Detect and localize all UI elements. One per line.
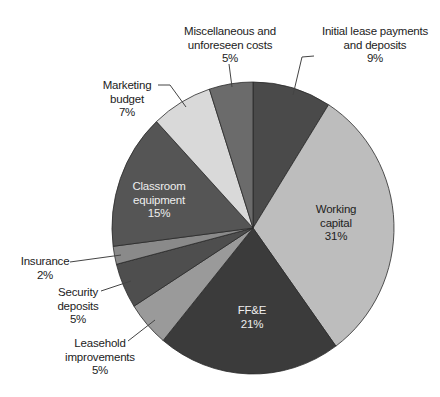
label-marketing-budget: Marketingbudget7% [103,79,152,118]
label-ff-e: FF&E21% [238,304,267,330]
label-percent: 9% [367,52,383,64]
label-text-line: equipment [133,194,186,206]
label-text-line: Initial lease payments [322,25,429,37]
label-initial-lease-payments-and-deposits: Initial lease paymentsand deposits9% [322,25,429,64]
label-text-line: Marketing [103,79,152,91]
label-text-line: and deposits [344,39,407,51]
label-leasehold-improvements: Leaseholdimprovements5% [65,337,135,376]
label-miscellaneous-and-unforeseen-costs: Miscellaneous andunforeseen costs5% [184,25,276,64]
label-percent: 21% [241,318,263,330]
leader-line-leasehold-improvements [128,320,155,341]
label-percent: 15% [148,207,170,219]
label-insurance: Insurance2% [21,255,70,281]
label-text-line: capital [320,217,352,229]
label-security-deposits: Securitydeposits5% [57,286,99,325]
label-percent: 2% [37,269,53,281]
label-text-line: unforeseen costs [188,39,273,51]
label-text-line: Leasehold [74,337,125,349]
label-percent: 31% [325,230,347,242]
label-percent: 7% [119,106,135,118]
label-percent: 5% [222,52,238,64]
label-text-line: Working [316,203,357,215]
label-text-line: budget [110,93,145,105]
label-percent: 5% [92,364,108,376]
label-text-line: Classroom [132,180,185,192]
label-text-line: Insurance [21,255,70,267]
pie-chart: Initial lease paymentsand deposits9%Work… [0,0,440,397]
leader-line-insurance [70,255,121,262]
label-text-line: Security [58,286,98,298]
label-percent: 5% [70,313,86,325]
label-text-line: Miscellaneous and [184,25,276,37]
label-text-line: deposits [57,300,99,312]
label-text-line: FF&E [238,304,267,316]
label-text-line: improvements [65,351,135,363]
